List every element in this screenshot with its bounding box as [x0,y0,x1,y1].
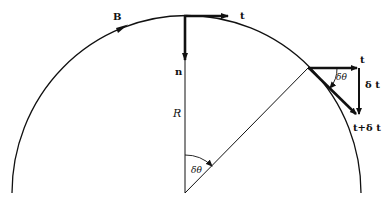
tangent-label-t-2: t [360,55,365,65]
normal-label-n: n [175,67,182,77]
tangent-label-t: t [240,11,245,21]
t-plus-delta-t-label: t+δ t [353,123,381,133]
angle-label-center: δθ [191,166,202,175]
angle-label-triangle: δθ [336,73,347,82]
field-label-B: B [113,12,121,22]
field-direction-arrow-icon [116,25,128,34]
t-plus-delta-t-vector [309,68,356,114]
radius-label-R: R [173,108,181,119]
delta-t-label: δ t [365,80,380,90]
radius-line-rotated [185,68,308,193]
field-line-arc [12,15,361,193]
